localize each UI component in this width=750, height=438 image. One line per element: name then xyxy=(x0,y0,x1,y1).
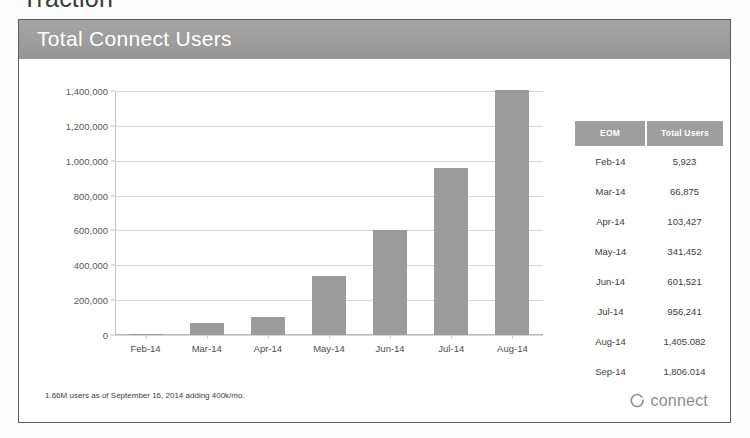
x-tick-label: Apr-14 xyxy=(237,343,298,354)
cell-eom: Mar-14 xyxy=(575,176,646,206)
slide-body: 0200,000400,000600,000800,0001,000,0001,… xyxy=(19,59,730,422)
cell-total-users: 1,405.082 xyxy=(646,326,723,356)
bar-slot: Apr-14 xyxy=(237,91,298,335)
brand-name: connect xyxy=(651,392,708,410)
cell-eom: Jul-14 xyxy=(575,296,646,326)
y-tick-label: 1,400,000 xyxy=(66,86,108,97)
x-tick-label: Aug-14 xyxy=(482,343,543,354)
x-tick-mark xyxy=(512,335,513,339)
bar-slot: Feb-14 xyxy=(115,91,176,335)
table-row: Feb-145,923 xyxy=(575,146,723,176)
cell-eom: Jun-14 xyxy=(575,266,646,296)
x-tick-label: May-14 xyxy=(298,343,359,354)
table-row: Jul-14956,241 xyxy=(575,296,723,326)
cell-total-users: 341,452 xyxy=(646,236,723,266)
brand-lockup: connect xyxy=(629,392,708,410)
open-ring-icon xyxy=(629,393,646,410)
y-tick-label: 1,000,000 xyxy=(66,155,108,166)
table-header-row: EOM Total Users xyxy=(575,121,723,146)
bar xyxy=(312,276,346,336)
users-data-table: EOM Total Users Feb-145,923Mar-1466,875A… xyxy=(575,121,723,386)
bar xyxy=(495,90,529,335)
y-tick-label: 0 xyxy=(103,330,108,341)
slide-title: Total Connect Users xyxy=(37,27,232,51)
x-tick-mark xyxy=(329,335,330,339)
cell-total-users: 5,923 xyxy=(646,146,723,176)
x-tick-mark xyxy=(207,335,208,339)
table-row: Sep-141,806.014 xyxy=(575,356,723,386)
bar-chart: 0200,000400,000600,000800,0001,000,0001,… xyxy=(33,77,553,377)
cell-eom: Feb-14 xyxy=(575,146,646,176)
bar-slot: Aug-14 xyxy=(482,91,543,335)
x-tick-label: Jul-14 xyxy=(421,343,482,354)
column-header-total-users: Total Users xyxy=(646,121,723,146)
cell-total-users: 66,875 xyxy=(646,176,723,206)
footnote: 1.66M users as of September 16, 2014 add… xyxy=(45,391,245,400)
chart-bars: Feb-14Mar-14Apr-14May-14Jun-14Jul-14Aug-… xyxy=(115,91,543,335)
x-tick-mark xyxy=(451,335,452,339)
bar-slot: May-14 xyxy=(298,91,359,335)
x-tick-mark xyxy=(146,335,147,339)
cell-eom: Aug-14 xyxy=(575,326,646,356)
deck-section-heading: Traction xyxy=(22,0,113,13)
cell-total-users: 956,241 xyxy=(646,296,723,326)
slide-screenshot: Traction Total Connect Users 0200,000400… xyxy=(0,0,750,438)
x-tick-mark xyxy=(268,335,269,339)
bar-slot: Mar-14 xyxy=(176,91,237,335)
cell-eom: May-14 xyxy=(575,236,646,266)
x-tick-label: Mar-14 xyxy=(176,343,237,354)
y-tick-label: 1,200,000 xyxy=(66,120,108,131)
table-row: May-14341,452 xyxy=(575,236,723,266)
table-row: Jun-14601,521 xyxy=(575,266,723,296)
bar xyxy=(373,230,407,335)
slide-title-bar: Total Connect Users xyxy=(19,20,730,59)
cell-total-users: 1,806.014 xyxy=(646,356,723,386)
y-tick-label: 800,000 xyxy=(74,190,108,201)
table-row: Aug-141,405.082 xyxy=(575,326,723,356)
y-tick-label: 600,000 xyxy=(74,225,108,236)
column-header-eom: EOM xyxy=(575,121,646,146)
cell-total-users: 601,521 xyxy=(646,266,723,296)
bar-slot: Jul-14 xyxy=(421,91,482,335)
table-row: Apr-14103,427 xyxy=(575,206,723,236)
cell-total-users: 103,427 xyxy=(646,206,723,236)
x-tick-mark xyxy=(390,335,391,339)
bar xyxy=(434,168,468,335)
chart-plot-area: 0200,000400,000600,000800,0001,000,0001,… xyxy=(115,91,543,335)
cell-eom: Apr-14 xyxy=(575,206,646,236)
bar xyxy=(190,323,224,335)
y-tick-label: 400,000 xyxy=(74,260,108,271)
slide-frame: Total Connect Users 0200,000400,000600,0… xyxy=(18,19,731,423)
x-tick-label: Feb-14 xyxy=(115,343,176,354)
bar xyxy=(251,317,285,335)
y-tick-label: 200,000 xyxy=(74,295,108,306)
cell-eom: Sep-14 xyxy=(575,356,646,386)
bar-slot: Jun-14 xyxy=(360,91,421,335)
table-row: Mar-1466,875 xyxy=(575,176,723,206)
x-tick-label: Jun-14 xyxy=(360,343,421,354)
